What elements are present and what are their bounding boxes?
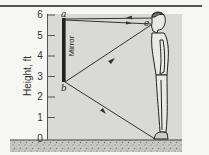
tick-label-4: 4 xyxy=(37,50,43,61)
tick-label-1: 1 xyxy=(37,112,43,123)
top-border-line xyxy=(0,5,202,7)
tick-label-6: 6 xyxy=(37,9,43,20)
tick-label-3: 3 xyxy=(37,71,43,82)
point-b-label: b xyxy=(61,83,67,93)
point-e-label: e xyxy=(144,18,149,28)
mirror-ray-diagram: 0 1 2 3 4 5 6 Height, ft Mirror a b e xyxy=(0,0,209,155)
mirror-label: Mirror xyxy=(67,35,76,56)
point-a-label: a xyxy=(61,9,66,19)
tick-label-5: 5 xyxy=(37,30,43,41)
ground xyxy=(10,140,182,152)
tick-label-0: 0 xyxy=(37,133,43,144)
tick-label-2: 2 xyxy=(37,91,43,102)
y-axis-title: Height, ft xyxy=(22,56,33,96)
